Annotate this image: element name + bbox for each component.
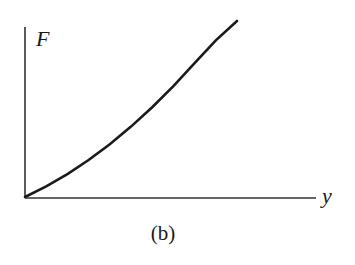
y-axis-label: F [35, 26, 50, 51]
figure-caption: (b) [151, 221, 176, 245]
chart: F y (b) [0, 0, 355, 265]
data-curve [25, 21, 237, 197]
x-axis-label: y [320, 183, 332, 208]
